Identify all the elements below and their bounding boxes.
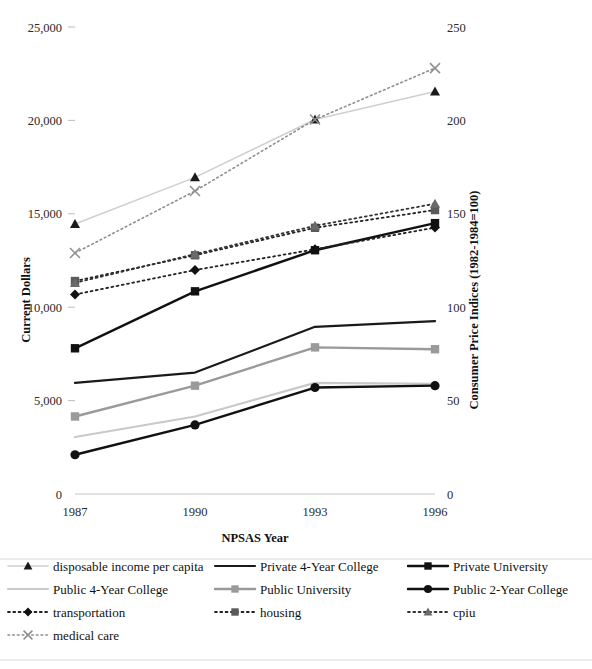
right-tick-label: 200 [447, 114, 466, 128]
legend-item[interactable]: cpiu [408, 605, 476, 620]
left-tick-label: 25,000 [28, 21, 62, 35]
marker-diamond [70, 289, 80, 299]
right-tick-label: 250 [447, 21, 466, 35]
legend-item[interactable]: Public 4-Year College [8, 582, 168, 597]
legend-item-label: cpiu [453, 605, 476, 620]
marker-cross [430, 63, 440, 73]
series-line [75, 91, 435, 224]
right-tick-label: 50 [447, 394, 460, 408]
left-tick-label: 20,000 [28, 114, 62, 128]
series-2 [71, 219, 439, 353]
marker-square [231, 608, 238, 615]
x-axis-title: NPSAS Year [221, 531, 289, 545]
x-tick-label: 1990 [183, 505, 208, 519]
left-tick-label: 0 [56, 488, 62, 502]
chart-figure: 05,00010,00015,00020,00025,000 050100150… [0, 0, 592, 669]
marker-cross [190, 186, 200, 196]
legend-item[interactable]: Public 2-Year College [408, 582, 568, 597]
marker-diamond [190, 265, 200, 275]
x-axis-ticks: 1987199019931996 [63, 505, 448, 519]
marker-square [71, 344, 79, 352]
left-axis-ticks: 05,00010,00015,00020,00025,000 [28, 21, 75, 502]
marker-circle [70, 450, 79, 459]
legend-item-label: Public University [260, 582, 352, 597]
marker-square [311, 343, 319, 351]
series-line [75, 223, 435, 348]
legend-item-label: Private University [453, 559, 548, 574]
legend-item[interactable]: Private 4-Year College [215, 559, 379, 574]
marker-square [191, 287, 199, 295]
series-lines [70, 63, 440, 459]
left-tick-label: 15,000 [28, 207, 62, 221]
legend-item[interactable]: Private University [408, 559, 548, 574]
marker-square [231, 585, 238, 592]
marker-triangle [190, 172, 200, 181]
series-3 [75, 383, 435, 437]
marker-square [71, 412, 79, 420]
series-1 [75, 321, 435, 383]
series-8 [70, 199, 440, 287]
legend-item-label: Private 4-Year College [260, 559, 379, 574]
legend-item-label: disposable income per capita [53, 559, 204, 574]
marker-square [431, 345, 439, 353]
marker-triangle [70, 219, 80, 228]
legend-item[interactable]: medical care [8, 628, 119, 643]
series-line [75, 228, 435, 295]
legend-item-label: Public 4-Year College [53, 582, 168, 597]
legend-item[interactable]: Public University [215, 582, 352, 597]
series-9 [70, 63, 440, 258]
y2-axis-title: Consumer Price Indices (1982-1984=100) [467, 190, 481, 409]
marker-square [191, 381, 199, 389]
series-7 [71, 206, 439, 285]
marker-square [424, 562, 431, 569]
marker-diamond [24, 608, 33, 617]
series-0 [70, 86, 440, 228]
right-tick-label: 100 [447, 301, 466, 315]
legend-item-label: transportation [53, 605, 126, 620]
series-line [75, 386, 435, 455]
marker-triangle [430, 199, 440, 208]
marker-circle [430, 381, 439, 390]
chart-legend: disposable income per capitaPrivate 4-Ye… [0, 559, 592, 661]
series-line [75, 383, 435, 437]
chart-canvas: 05,00010,00015,00020,00025,000 050100150… [0, 0, 592, 669]
right-axis-ticks: 050100150200250 [447, 21, 466, 502]
legend-item-label: medical care [53, 628, 119, 643]
right-tick-label: 0 [447, 488, 453, 502]
legend-item[interactable]: housing [215, 605, 302, 620]
marker-circle [424, 585, 432, 593]
legend-item-label: housing [260, 605, 302, 620]
series-line [75, 68, 435, 253]
x-tick-label: 1987 [63, 505, 88, 519]
series-line [75, 321, 435, 383]
legend-item[interactable]: transportation [8, 605, 126, 620]
y-axis-title: Current Dollars [19, 257, 33, 343]
marker-triangle [430, 86, 440, 95]
series-4 [71, 343, 439, 421]
marker-circle [190, 420, 199, 429]
left-tick-label: 5,000 [34, 394, 62, 408]
legend-item-label: Public 2-Year College [453, 582, 568, 597]
marker-circle [310, 383, 319, 392]
x-tick-label: 1996 [423, 505, 448, 519]
right-tick-label: 150 [447, 207, 466, 221]
legend-item[interactable]: disposable income per capita [8, 559, 204, 574]
marker-cross [70, 248, 80, 258]
x-tick-label: 1993 [303, 505, 328, 519]
series-5 [70, 381, 439, 459]
